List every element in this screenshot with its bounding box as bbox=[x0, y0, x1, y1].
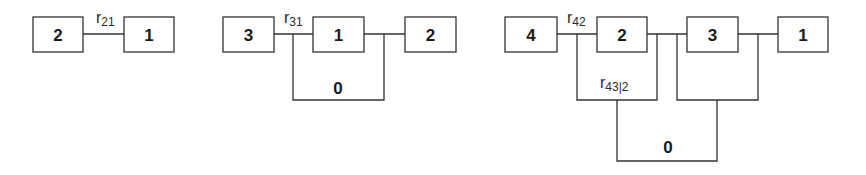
node-label: 2 bbox=[426, 26, 435, 45]
node-4: 4 bbox=[505, 17, 557, 52]
node-2: 2 bbox=[33, 17, 83, 52]
node-label: 1 bbox=[144, 26, 153, 45]
node-1: 1 bbox=[313, 17, 364, 52]
node-label: 3 bbox=[244, 26, 253, 45]
zero-label: 0 bbox=[663, 138, 672, 157]
zero-label: 0 bbox=[333, 79, 342, 98]
node-3: 3 bbox=[223, 17, 274, 52]
node-label: 2 bbox=[53, 26, 62, 45]
node-label: 1 bbox=[334, 26, 343, 45]
node-1: 1 bbox=[124, 17, 174, 52]
node-1: 1 bbox=[778, 17, 828, 52]
node-label: 4 bbox=[526, 26, 536, 45]
node-3: 3 bbox=[687, 17, 738, 52]
path-label-r21: r21 bbox=[96, 9, 115, 29]
panel-1: 2 1 r21 bbox=[33, 9, 174, 52]
path-diagrams: 2 1 r21 3 1 2 r31 0 bbox=[0, 0, 866, 175]
node-label: 1 bbox=[798, 26, 807, 45]
path-label-r42: r42 bbox=[567, 9, 586, 29]
panel-3: 4 2 3 1 r42 r43|2 0 bbox=[505, 9, 828, 161]
panel-2: 3 1 2 r31 0 bbox=[223, 9, 456, 100]
node-label: 2 bbox=[617, 26, 626, 45]
node-label: 3 bbox=[708, 26, 717, 45]
node-2: 2 bbox=[405, 17, 456, 52]
path-label-r43-given-2: r43|2 bbox=[600, 74, 629, 94]
node-2: 2 bbox=[597, 17, 647, 52]
path-label-r31: r31 bbox=[284, 9, 303, 29]
